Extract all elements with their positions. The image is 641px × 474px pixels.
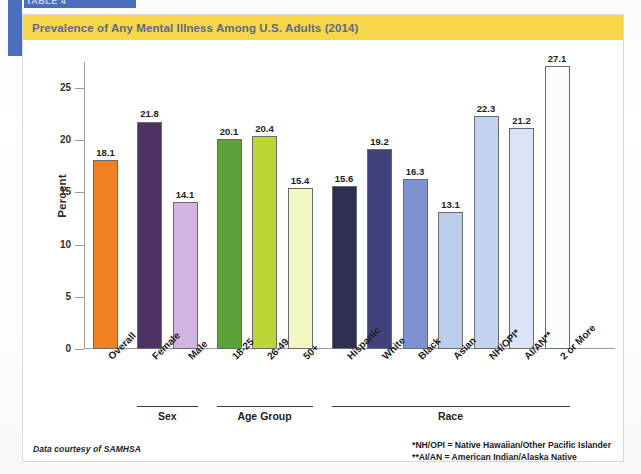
bar-rect [438, 212, 463, 349]
footnote-nhopi: *NH/OPI = Native Hawaiian/Other Pacific … [412, 439, 611, 451]
bar-rect [332, 186, 357, 349]
bar-2-or-more [545, 62, 570, 349]
bar-value-label: 14.1 [170, 189, 201, 200]
bar-overall [93, 62, 118, 349]
y-tick-5 [75, 297, 84, 298]
bar-value-label: 16.3 [400, 166, 431, 177]
decorative-blue-tab [8, 0, 22, 56]
bar-white [367, 62, 392, 349]
bracket-label-age-group: Age Group [217, 410, 313, 422]
bar-rect [252, 136, 277, 349]
bar-value-label: 20.1 [214, 126, 245, 137]
bar-rect [137, 122, 162, 350]
chart-title: Prevalence of Any Mental Illness Among U… [23, 22, 359, 34]
bar-50- [288, 62, 313, 349]
source-note: Data courtesy of SAMHSA [33, 444, 141, 454]
footnotes: *NH/OPI = Native Hawaiian/Other Pacific … [412, 439, 611, 463]
bar-rect [173, 202, 198, 349]
bar-18-25 [217, 62, 242, 349]
bar-rect [217, 139, 242, 349]
bar-value-label: 27.1 [542, 53, 573, 64]
bracket-label-race: Race [332, 410, 570, 422]
bar-rect [403, 179, 428, 349]
bar-value-label: 20.4 [249, 123, 280, 134]
bar-value-label: 19.2 [364, 136, 395, 147]
y-tick-0 [75, 349, 84, 350]
bracket-label-sex: Sex [137, 410, 198, 422]
table-number-label: TABLE 4 [24, 0, 136, 8]
bar-rect [509, 128, 534, 349]
y-tick-label-20: 20 [39, 134, 71, 145]
bracket-line-sex [137, 406, 198, 407]
y-tick-20 [75, 140, 84, 141]
bar-value-label: 15.6 [329, 173, 360, 184]
bar-rect [367, 149, 392, 349]
bar-male [173, 62, 198, 349]
bar-value-label: 18.1 [90, 147, 121, 158]
bar-hispanic [332, 62, 357, 349]
y-tick-15 [75, 192, 84, 193]
chart-plot-area: Percent 0510152025 18.121.814.120.120.41… [23, 40, 623, 461]
bar-rect [288, 188, 313, 349]
bar-value-label: 21.2 [506, 115, 537, 126]
bar-ai-an- [509, 62, 534, 349]
bar-female [137, 62, 162, 349]
bar-value-label: 15.4 [285, 175, 316, 186]
y-tick-label-25: 25 [39, 82, 71, 93]
bar-black [403, 62, 428, 349]
footnote-aian: **AI/AN = American Indian/Alaska Native [412, 451, 611, 463]
bar-value-label: 13.1 [435, 199, 466, 210]
y-tick-label-15: 15 [39, 186, 71, 197]
y-tick-label-10: 10 [39, 239, 71, 250]
bar-rect [545, 66, 570, 349]
bar-value-label: 22.3 [471, 103, 502, 114]
bar-series: 18.121.814.120.120.415.415.619.216.313.1… [84, 62, 615, 349]
y-tick-label-5: 5 [39, 291, 71, 302]
bar-26-49 [252, 62, 277, 349]
bracket-line-age-group [217, 406, 313, 407]
bar-value-label: 21.8 [134, 108, 165, 119]
chart-title-bar: Prevalence of Any Mental Illness Among U… [23, 15, 623, 40]
bracket-line-race [332, 406, 570, 407]
y-tick-10 [75, 245, 84, 246]
y-tick-25 [75, 88, 84, 89]
bar-rect [474, 116, 499, 349]
y-tick-label-0: 0 [39, 343, 71, 354]
bar-rect [93, 160, 118, 349]
figure-card: Prevalence of Any Mental Illness Among U… [22, 14, 624, 462]
